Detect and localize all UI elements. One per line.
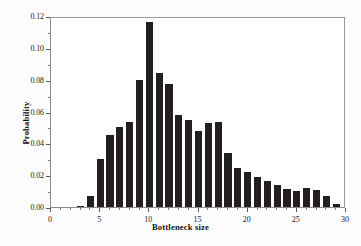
y-axis-tick-label: 0.04	[30, 138, 44, 149]
x-axis-minor-tick	[139, 208, 140, 210]
bar	[195, 131, 202, 207]
figure: Probability 0.000.020.040.060.080.100.12…	[0, 0, 361, 246]
x-axis-minor-tick	[286, 208, 287, 210]
x-axis-minor-tick	[70, 208, 71, 210]
x-axis-tick-mark	[345, 208, 346, 212]
y-axis-tick-label: 0.08	[30, 75, 44, 86]
bar	[254, 177, 261, 207]
bar	[205, 123, 212, 207]
bar	[303, 188, 310, 207]
y-axis-tick-label: 0.10	[30, 43, 44, 54]
bar	[313, 190, 320, 207]
x-axis-minor-tick	[325, 208, 326, 210]
x-axis-minor-tick	[89, 208, 90, 210]
x-axis-minor-tick	[227, 208, 228, 210]
bar	[165, 84, 172, 207]
bar	[136, 80, 143, 207]
bar	[234, 168, 241, 207]
bar	[87, 196, 94, 207]
x-axis-tick-mark	[296, 208, 297, 212]
x-axis-minor-tick	[276, 208, 277, 210]
bar	[264, 181, 271, 207]
bar	[116, 127, 123, 207]
x-axis-tick-mark	[50, 208, 51, 212]
bar	[126, 122, 133, 207]
bar	[323, 196, 330, 207]
bar	[97, 159, 104, 207]
y-axis-tick-label: 0.12	[30, 11, 44, 22]
bar	[77, 206, 84, 207]
y-axis-tick-label: 0.02	[30, 170, 44, 181]
x-axis-title: Bottleneck size	[0, 222, 361, 232]
x-axis-tick-mark	[99, 208, 100, 212]
bar	[283, 189, 290, 207]
bar	[146, 22, 153, 207]
bar	[224, 153, 231, 207]
bar	[175, 115, 182, 207]
x-axis-minor-tick	[129, 208, 130, 210]
bar	[156, 73, 163, 207]
bar	[333, 204, 340, 207]
x-axis-minor-tick	[316, 208, 317, 210]
x-axis-minor-tick	[178, 208, 179, 210]
bar	[185, 120, 192, 207]
bar	[274, 185, 281, 207]
x-axis-minor-tick	[119, 208, 120, 210]
x-axis-minor-tick	[237, 208, 238, 210]
x-axis-minor-tick	[257, 208, 258, 210]
bar	[244, 172, 251, 207]
x-axis-tick-mark	[198, 208, 199, 212]
x-axis-minor-tick	[158, 208, 159, 210]
x-axis-minor-tick	[266, 208, 267, 210]
bar	[106, 135, 113, 207]
x-axis-tick-mark	[148, 208, 149, 212]
x-axis-minor-tick	[109, 208, 110, 210]
bar	[293, 191, 300, 207]
x-axis-minor-tick	[207, 208, 208, 210]
plot-area	[50, 17, 345, 208]
x-axis-tick-mark	[247, 208, 248, 212]
x-axis-minor-tick	[217, 208, 218, 210]
x-axis-minor-tick	[168, 208, 169, 210]
x-axis-minor-tick	[80, 208, 81, 210]
x-axis-minor-tick	[306, 208, 307, 210]
bar	[215, 122, 222, 207]
x-axis-minor-tick	[335, 208, 336, 210]
x-axis-minor-tick	[60, 208, 61, 210]
y-axis-tick-label: 0.06	[30, 107, 44, 118]
bars-layer	[51, 18, 344, 207]
x-axis-minor-tick	[188, 208, 189, 210]
